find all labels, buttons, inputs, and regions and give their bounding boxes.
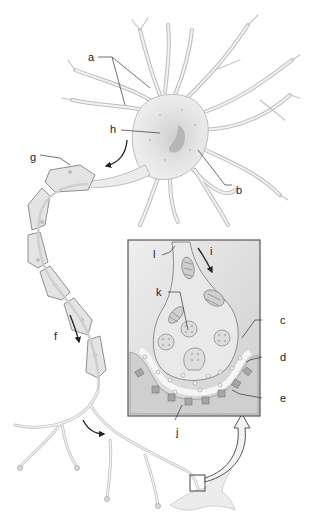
label-c: c — [280, 314, 286, 326]
label-e: e — [280, 392, 286, 404]
label-f: f — [54, 330, 58, 342]
neuron-diagram: a h b g f l i k c d e j — [0, 0, 309, 527]
label-j: j — [175, 426, 178, 438]
synapse-inset — [128, 240, 260, 416]
terminal-boutons — [18, 466, 161, 509]
label-h: h — [110, 123, 116, 135]
label-k: k — [156, 286, 162, 298]
label-b: b — [236, 184, 242, 196]
inset-callout-arrow — [205, 414, 250, 482]
label-l: l — [153, 248, 155, 260]
myelin-sheath — [28, 165, 106, 378]
label-a: a — [88, 51, 95, 63]
label-g: g — [30, 151, 36, 163]
label-d: d — [280, 351, 286, 363]
label-i: i — [210, 245, 212, 257]
